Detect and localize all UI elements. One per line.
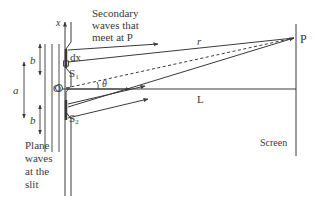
- secondary-waves-label-2: waves that: [92, 19, 139, 31]
- x-axis-label: x: [55, 17, 61, 28]
- s1-label: S1: [69, 67, 79, 81]
- ray-low-arrow: [68, 99, 148, 118]
- dx-label: dx: [70, 51, 82, 63]
- a-label: a: [13, 84, 19, 96]
- screen-label: Screen: [260, 137, 287, 148]
- b-top-label: b: [30, 54, 36, 66]
- distance-l-label: L: [197, 93, 204, 105]
- plane-waves-label-3: at the: [25, 165, 49, 177]
- s2-label: S2: [69, 112, 79, 126]
- origin-label: O: [53, 82, 61, 94]
- single-slit-diffraction-diagram: x Secondary waves that meet at P dx S1 S…: [0, 0, 319, 204]
- theta-arc: [97, 82, 98, 89]
- ray-bottom-to-p: [68, 38, 294, 107]
- plane-waves-label-4: slit: [25, 178, 38, 190]
- plane-wavefronts: [45, 44, 59, 152]
- b-bottom-label: b: [30, 114, 36, 126]
- plane-waves-label-1: Plane: [25, 139, 50, 151]
- point-p-label: P: [300, 32, 307, 46]
- secondary-waves-label-3: meet at P: [92, 31, 133, 43]
- r-label: r: [197, 35, 202, 47]
- ray-top-arrow: [68, 44, 158, 50]
- ray-center-dashed: [66, 38, 294, 88]
- secondary-waves-label-1: Secondary: [92, 7, 139, 19]
- plane-waves-label-2: waves: [25, 152, 53, 164]
- theta-label: θ: [102, 78, 107, 89]
